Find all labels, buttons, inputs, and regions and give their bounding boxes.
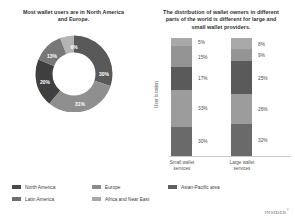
bar-segment-large-latin: 9% [231, 49, 252, 61]
legend-swatch-north-america [12, 185, 21, 190]
bar-segment-small-asia: 17% [171, 67, 192, 90]
bar-label-large-europe: 26% [258, 106, 268, 111]
registered-trademark-icon: ® [286, 208, 289, 212]
bar-segment-small-latin: 15% [171, 46, 192, 67]
bar-label-small-europe: 33% [198, 106, 208, 111]
legend-swatch-africa-near-east [92, 197, 101, 202]
legend-column-1: North America Latin America [12, 182, 55, 206]
bar-group-small-wallet: 5% 15% 17% 33% 30% Small wallet services [171, 38, 227, 156]
bar-label-large-africa: 8% [258, 41, 265, 46]
bar-segment-large-europe: 26% [231, 94, 252, 124]
donut-chart-panel: Most wallet users are in North America a… [0, 0, 147, 178]
bar-label-large-latin: 9% [258, 53, 265, 58]
bar-label-small-asia: 17% [198, 76, 208, 81]
legend-label-latin-america: Latin America [25, 197, 54, 202]
bar-segment-small-north-america: 30% [171, 127, 192, 156]
bar-label-large-asia: 25% [258, 75, 268, 80]
bar-chart-y-axis-label: User location [154, 72, 159, 118]
legend-column-2: Europe Africa and Near East [92, 182, 149, 206]
legend-item-north-america: North America [12, 182, 55, 192]
legend-label-europe: Europe [105, 185, 120, 190]
legend-item-africa-near-east: Africa and Near East [92, 194, 149, 204]
legend-swatch-latin-america [12, 197, 21, 202]
bar-stack-large-wallet: 8% 9% 25% 26% 32% [231, 38, 252, 156]
bar-segment-small-europe: 33% [171, 90, 192, 127]
bar-segment-large-africa: 8% [231, 38, 252, 49]
bar-category-label-large: Large wallet services [221, 160, 263, 172]
donut-label-31: 31% [74, 101, 85, 107]
donut-label-30: 30% [98, 71, 109, 77]
bar-stack-small-wallet: 5% 15% 17% 33% 30% [171, 38, 192, 156]
legend-swatch-europe [92, 185, 101, 190]
bar-chart-plot-area: User location 5% 15% 17% 33% 30% [147, 36, 295, 164]
insider-wordmark: INSIDER [265, 210, 287, 215]
bar-chart-axis-line [169, 156, 291, 157]
donut-label-13: 13% [46, 53, 57, 59]
insider-attribution: INSIDER® [265, 208, 289, 215]
legend-item-europe: Europe [92, 182, 149, 192]
legend-label-asian-pacific-area: Asian-Pacific area [181, 185, 220, 190]
donut-label-20: 20% [39, 79, 50, 85]
stacked-bar-chart-panel: The distribution of wallet owners in dif… [147, 0, 295, 178]
bar-label-small-latin: 15% [198, 54, 208, 59]
bar-group-large-wallet: 8% 9% 25% 26% 32% Large wallet services [231, 38, 287, 156]
donut-svg: 30% 31% 20% 13% 6% [28, 34, 120, 112]
legend-item-asian-pacific-area: Asian-Pacific area [168, 182, 220, 192]
bar-segment-large-north-america: 32% [231, 124, 252, 156]
legend-label-north-america: North America [25, 185, 55, 190]
bar-label-small-africa: 5% [198, 40, 205, 45]
donut-chart-graphic: 30% 31% 20% 13% 6% [0, 34, 147, 112]
legend-swatch-asian-pacific-area [168, 185, 177, 190]
legend-item-latin-america: Latin America [12, 194, 55, 204]
donut-label-6: 6% [70, 44, 78, 50]
chart-legend: North America Latin America Europe Afric… [0, 182, 295, 210]
donut-chart-title: Most wallet users are in North America a… [0, 0, 147, 24]
bar-label-small-north-america: 30% [198, 139, 208, 144]
bar-segment-small-africa: 5% [171, 38, 192, 46]
bar-category-label-small: Small wallet services [161, 160, 203, 172]
legend-column-3: Asian-Pacific area [168, 182, 220, 194]
legend-label-africa-near-east: Africa and Near East [105, 197, 149, 202]
bar-segment-large-asia: 25% [231, 61, 252, 93]
bar-chart-title: The distribution of wallet owners in dif… [147, 0, 295, 31]
bar-label-large-north-america: 32% [258, 137, 268, 142]
